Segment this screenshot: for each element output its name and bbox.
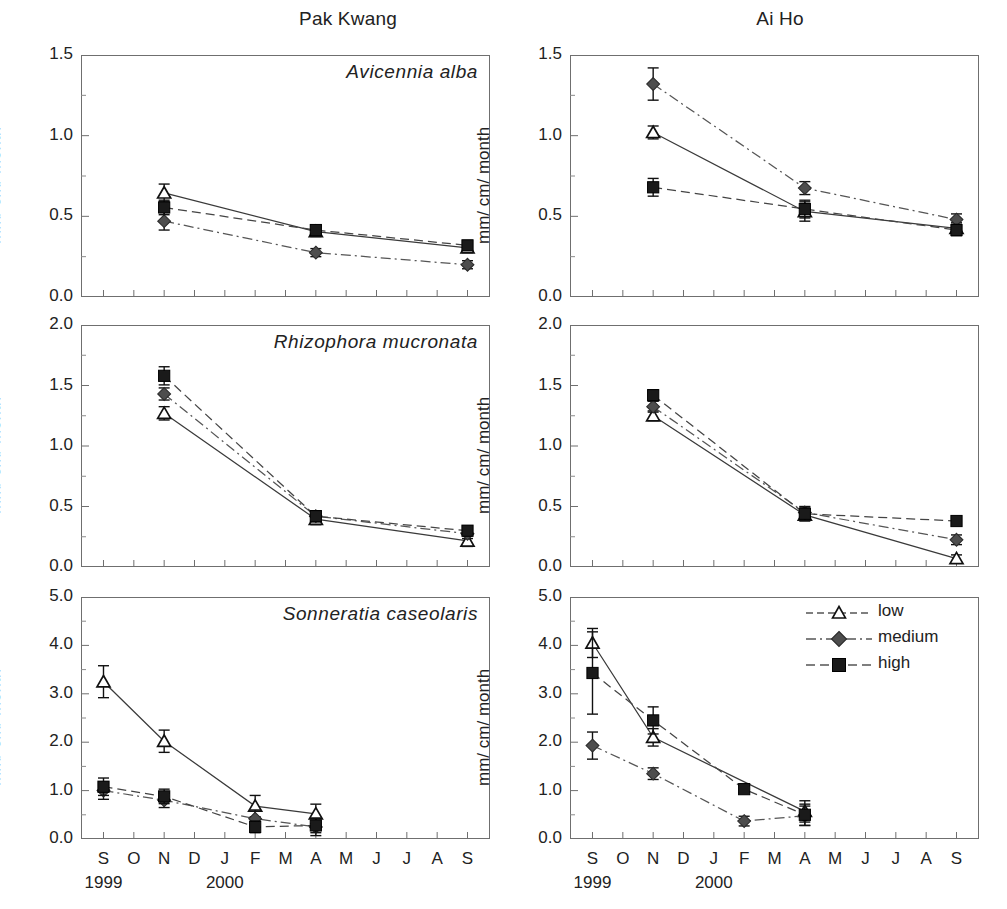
legend-entry-low: low — [806, 600, 986, 626]
y-tick-label: 0.0 — [19, 556, 73, 576]
x-tick-label: F — [241, 849, 269, 869]
y-tick-label: 2.0 — [508, 314, 562, 334]
filled-square-marker — [310, 820, 321, 831]
filled-square-marker — [462, 240, 473, 251]
x-tick-label: O — [609, 849, 637, 869]
filled-square-marker — [462, 525, 473, 536]
y-tick-label: 1.5 — [19, 44, 73, 64]
legend-entry-medium: medium — [806, 626, 986, 652]
y-tick-label: 3.0 — [19, 683, 73, 703]
x-tick-label: O — [120, 849, 148, 869]
y-axis-title: mm/ cm/ month — [0, 127, 5, 244]
x-axis-year-label: 2000 — [199, 873, 251, 893]
legend-label-medium: medium — [878, 627, 938, 647]
x-tick-label: S — [578, 849, 606, 869]
filled-square-marker — [310, 511, 321, 522]
chart-panel-row1-right — [570, 55, 979, 297]
x-tick-label: J — [211, 849, 239, 869]
filled-diamond-marker — [158, 388, 171, 401]
y-tick-label: 0.5 — [19, 205, 73, 225]
y-tick-label: 1.5 — [508, 375, 562, 395]
y-tick-label: 0.0 — [508, 286, 562, 306]
filled-square-marker — [648, 390, 659, 401]
y-tick-label: 0.0 — [508, 556, 562, 576]
y-tick-label: 2.0 — [19, 314, 73, 334]
mangrove-growth-figure: Pak Kwang Ai Ho Avicennia alba0.00.51.01… — [0, 0, 1007, 909]
open-triangle-marker — [950, 552, 963, 563]
y-tick-label: 1.5 — [508, 44, 562, 64]
series-line-high — [104, 787, 316, 827]
filled-square-marker — [98, 781, 109, 792]
series-line-low — [164, 193, 467, 248]
filled-diamond-marker — [832, 632, 847, 647]
x-tick-label: M — [761, 849, 789, 869]
open-triangle-marker — [97, 676, 110, 687]
x-tick-label: M — [821, 849, 849, 869]
series-line-medium — [104, 791, 316, 827]
filled-square-marker — [951, 515, 962, 526]
y-tick-label: 1.0 — [508, 780, 562, 800]
chart-panel-row2-right — [570, 325, 979, 567]
y-tick-label: 5.0 — [19, 586, 73, 606]
chart-panel-row2-left: Rhizophora mucronata — [81, 325, 490, 567]
species-title-row1-left: Avicennia alba — [346, 61, 478, 83]
legend-label-high: high — [878, 653, 910, 673]
x-tick-label: A — [302, 849, 330, 869]
y-axis-title: mm/ cm/ month — [474, 669, 494, 786]
series-line-low — [104, 682, 316, 814]
chart-panel-row3-left: Sonneratia caseolaris — [81, 597, 490, 839]
y-tick-label: 1.0 — [19, 780, 73, 800]
y-tick-label: 1.0 — [19, 435, 73, 455]
filled-square-marker — [310, 224, 321, 235]
x-tick-label: D — [669, 849, 697, 869]
x-tick-label: S — [454, 849, 482, 869]
x-tick-label: N — [150, 849, 178, 869]
legend-label-low: low — [878, 601, 904, 621]
y-tick-label: 4.0 — [19, 634, 73, 654]
series-line-high — [593, 673, 805, 815]
x-axis-year-label: 2000 — [688, 873, 740, 893]
legend: low medium high — [806, 600, 986, 678]
filled-square-marker — [799, 203, 810, 214]
open-triangle-marker — [158, 187, 171, 198]
plot-canvas — [81, 325, 490, 567]
y-tick-label: 1.0 — [508, 125, 562, 145]
plot-canvas — [81, 55, 490, 297]
y-axis-title: mm/ cm/ month — [474, 127, 494, 244]
y-axis-title: mm/ cm/ month — [474, 397, 494, 514]
series-line-low — [653, 416, 956, 559]
x-tick-label: S — [89, 849, 117, 869]
filled-square-marker — [159, 791, 170, 802]
y-tick-label: 0.0 — [508, 828, 562, 848]
y-tick-label: 0.5 — [508, 205, 562, 225]
y-axis-title: mm/ cm/ month — [0, 397, 5, 514]
filled-square-marker — [159, 370, 170, 381]
plot-canvas — [570, 325, 979, 567]
chart-panel-row1-left: Avicennia alba — [81, 55, 490, 297]
x-tick-label: J — [363, 849, 391, 869]
y-tick-label: 1.0 — [508, 435, 562, 455]
species-title-row3-left: Sonneratia caseolaris — [283, 603, 478, 625]
column-title-pak-kwang: Pak Kwang — [198, 8, 498, 30]
filled-diamond-marker — [158, 215, 171, 228]
series-line-high — [164, 376, 467, 531]
series-line-medium — [593, 746, 805, 822]
x-tick-label: J — [882, 849, 910, 869]
x-tick-label: M — [272, 849, 300, 869]
x-tick-label: A — [423, 849, 451, 869]
filled-square-marker — [159, 202, 170, 213]
open-triangle-marker — [158, 407, 171, 418]
y-axis-title: mm/ cm/ month — [0, 669, 5, 786]
x-axis-year-label: 1999 — [77, 873, 129, 893]
filled-square-marker — [833, 659, 846, 672]
filled-square-marker — [648, 715, 659, 726]
y-tick-label: 2.0 — [19, 731, 73, 751]
species-title-row2-left: Rhizophora mucronata — [274, 331, 478, 353]
x-tick-label: D — [180, 849, 208, 869]
plot-canvas — [570, 55, 979, 297]
x-tick-label: M — [332, 849, 360, 869]
filled-diamond-marker — [586, 739, 599, 752]
y-tick-label: 5.0 — [508, 586, 562, 606]
series-line-medium — [653, 84, 956, 220]
y-tick-label: 4.0 — [508, 634, 562, 654]
